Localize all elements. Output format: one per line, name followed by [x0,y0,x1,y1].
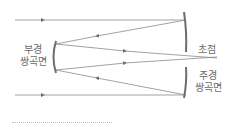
reflected-ray-bottom [97,78,186,95]
secondary-mirror-label: 부경 쌍곡면 [16,44,50,68]
focus-ray-bottom [56,63,125,70]
label-line: 주경 [190,70,226,82]
label-line: 쌍곡면 [16,56,50,68]
label-line: 부경 [16,44,50,56]
focus-ray-top [56,44,125,51]
primary-mirror-upper [184,12,186,52]
primary-mirror-label: 주경 쌍곡면 [190,70,226,94]
secondary-mirror [54,41,57,73]
focus-label: 초점 [192,44,222,56]
label-line: 쌍곡면 [190,82,226,94]
clipped-caption [12,121,112,125]
reflected-ray-top [97,20,186,36]
primary-mirror-lower [184,67,186,98]
